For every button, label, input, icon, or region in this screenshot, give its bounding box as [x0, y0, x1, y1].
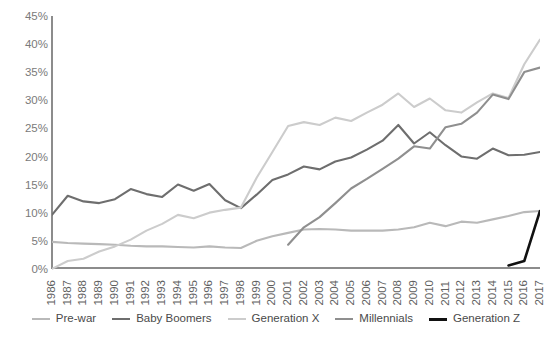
- y-axis-tick-label: 15%: [2, 180, 48, 192]
- x-axis-tick-label: 2009: [408, 280, 420, 306]
- x-axis-tick-label: 1987: [62, 280, 74, 306]
- x-axis-tick-label: 2010: [424, 280, 436, 306]
- series-canvas: [52, 14, 540, 273]
- x-axis-tick-label: 2005: [345, 280, 357, 306]
- legend-swatch-icon: [335, 318, 353, 320]
- x-axis: 1986198719881989199019911992199319941995…: [52, 272, 540, 306]
- y-axis-tick-label: 25%: [2, 123, 48, 135]
- x-axis-tick-label: 1998: [235, 280, 247, 306]
- x-axis-tick-label: 1992: [140, 280, 152, 306]
- legend-swatch-icon: [429, 318, 447, 321]
- y-axis-tick-label: 30%: [2, 95, 48, 107]
- x-axis-tick-label: 2014: [487, 280, 499, 306]
- x-axis-tick-label: 1988: [77, 280, 89, 306]
- legend-item-label: Generation Z: [453, 313, 520, 325]
- x-axis-tick-label: 1990: [109, 280, 121, 306]
- x-axis-tick-label: 1996: [203, 280, 215, 306]
- x-axis-tick-label: 2008: [392, 280, 404, 306]
- x-axis-tick-label: 2016: [518, 280, 530, 306]
- x-axis-tick-label: 1986: [46, 280, 58, 306]
- x-axis-tick-label: 2017: [534, 280, 546, 306]
- line-chart: 45%40%35%30%25%20%15%10%5%0% 19861987198…: [0, 0, 552, 339]
- legend-item-label: Pre-war: [56, 313, 96, 325]
- y-axis-tick-label: 45%: [2, 11, 48, 23]
- x-axis-tick-label: 2002: [298, 280, 310, 306]
- series-line-generation-z: [509, 211, 540, 266]
- y-axis-tick-label: 0%: [2, 264, 48, 276]
- x-axis-tick-label: 2000: [266, 280, 278, 306]
- x-axis-tick-label: 1997: [219, 280, 231, 306]
- legend-item-generation-z[interactable]: Generation Z: [429, 313, 520, 325]
- legend-item-baby-boomers[interactable]: Baby Boomers: [112, 313, 211, 325]
- legend-item-label: Millennials: [359, 313, 413, 325]
- x-axis-tick-label: 1999: [251, 280, 263, 306]
- legend-swatch-icon: [112, 318, 130, 320]
- legend-item-millennials[interactable]: Millennials: [335, 313, 413, 325]
- legend-item-pre-war[interactable]: Pre-war: [32, 313, 96, 325]
- x-axis-tick-label: 1989: [93, 280, 105, 306]
- chart-legend: Pre-warBaby BoomersGeneration XMillennia…: [0, 308, 552, 330]
- x-axis-tick-label: 2007: [377, 280, 389, 306]
- x-axis-tick-label: 2006: [361, 280, 373, 306]
- x-axis-tick-label: 1991: [125, 280, 137, 306]
- x-axis-tick-label: 1993: [156, 280, 168, 306]
- y-axis-tick-label: 20%: [2, 152, 48, 164]
- x-axis-tick-label: 2004: [329, 280, 341, 306]
- series-line-baby-boomers: [52, 125, 540, 215]
- y-axis-tick-label: 5%: [2, 236, 48, 248]
- legend-swatch-icon: [228, 318, 246, 320]
- x-axis-tick-label: 2015: [503, 280, 515, 306]
- legend-swatch-icon: [32, 318, 50, 320]
- x-axis-tick-label: 2013: [471, 280, 483, 306]
- legend-item-label: Generation X: [252, 313, 320, 325]
- y-axis-tick-label: 40%: [2, 39, 48, 51]
- y-axis: 45%40%35%30%25%20%15%10%5%0%: [0, 0, 48, 339]
- x-axis-tick-label: 2012: [455, 280, 467, 306]
- legend-item-generation-x[interactable]: Generation X: [228, 313, 320, 325]
- x-axis-tick-label: 2011: [440, 281, 452, 306]
- x-axis-tick-label: 2003: [314, 280, 326, 306]
- x-axis-tick-label: 2001: [282, 280, 294, 306]
- x-axis-tick-label: 1994: [172, 280, 184, 306]
- plot-area: [52, 14, 540, 273]
- y-axis-tick-label: 10%: [2, 208, 48, 220]
- legend-item-label: Baby Boomers: [136, 313, 211, 325]
- x-axis-tick-label: 1995: [188, 280, 200, 306]
- y-axis-tick-label: 35%: [2, 67, 48, 79]
